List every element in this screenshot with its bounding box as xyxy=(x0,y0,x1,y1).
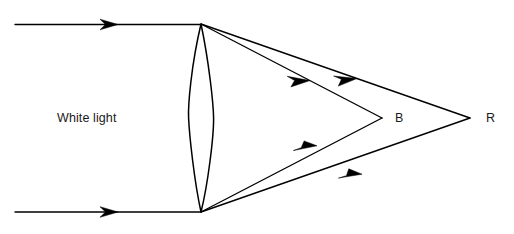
white-light-label: White light xyxy=(57,111,116,125)
arrowhead-blue-bottom-icon xyxy=(293,141,317,151)
lens-left-surface xyxy=(189,24,201,212)
red-ray-from-bottom xyxy=(201,118,470,212)
arrowhead-red-bottom-icon xyxy=(338,169,362,178)
red-ray-from-top xyxy=(201,24,470,118)
red-focus-label: R xyxy=(486,111,495,125)
refracted-rays-from-bottom xyxy=(201,118,470,212)
blue-focus-label: B xyxy=(395,111,403,125)
optics-diagram-figure: White light B R xyxy=(0,0,514,234)
arrowhead-blue-top-icon xyxy=(287,76,310,87)
blue-ray-from-top xyxy=(201,24,382,118)
refracted-rays-from-top xyxy=(201,24,470,118)
lens-right-surface xyxy=(201,24,214,212)
blue-ray-from-bottom xyxy=(201,118,382,212)
biconvex-lens xyxy=(189,24,214,212)
